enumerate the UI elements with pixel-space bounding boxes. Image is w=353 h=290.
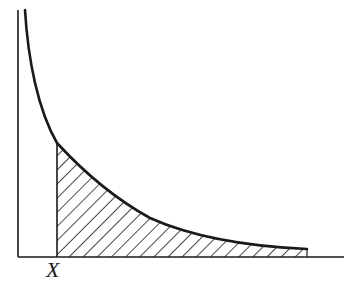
area-under-curve-diagram (0, 0, 353, 290)
x-marker-label: X (46, 259, 59, 281)
shaded-area (50, 130, 320, 260)
